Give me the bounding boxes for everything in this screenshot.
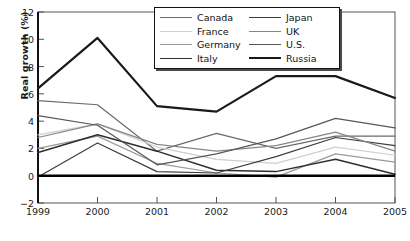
legend-item-italy[interactable]: Italy (160, 52, 245, 66)
legend-item-uk[interactable]: UK (249, 25, 334, 39)
line-chart: Real growth (%) 121086420−2 199920002001… (0, 0, 410, 241)
legend-swatch-line-icon (249, 31, 281, 32)
legend-item-france[interactable]: France (160, 25, 245, 39)
series-line-japan (38, 138, 395, 178)
legend-item-label: France (197, 27, 229, 37)
legend-item-label: Italy (197, 54, 218, 64)
legend-item-japan[interactable]: Japan (249, 11, 334, 25)
series-line-canada (38, 101, 395, 151)
legend-item-label: Japan (286, 13, 313, 23)
x-tick-label: 1999 (26, 206, 50, 217)
series-line-us (38, 116, 395, 165)
legend-item-label: Canada (197, 13, 233, 23)
x-tick-label: 2000 (85, 206, 109, 217)
chart-legend: CanadaJapanFranceUKGermanyU.S.ItalyRussi… (154, 7, 340, 69)
legend-swatch-line-icon (249, 44, 281, 45)
legend-item-germany[interactable]: Germany (160, 38, 245, 52)
legend-item-label: UK (286, 27, 299, 37)
legend-item-russia[interactable]: Russia (249, 52, 334, 66)
legend-item-us[interactable]: U.S. (249, 38, 334, 52)
legend-swatch-line-icon (160, 31, 192, 32)
legend-item-canada[interactable]: Canada (160, 11, 245, 25)
x-tick-label: 2004 (323, 206, 347, 217)
legend-swatch-line-icon (160, 44, 192, 45)
legend-item-label: U.S. (286, 40, 305, 50)
legend-swatch-line-icon (160, 17, 192, 18)
legend-swatch-line-icon (249, 57, 281, 59)
legend-item-label: Germany (197, 40, 241, 50)
x-tick-label: 2005 (383, 206, 407, 217)
series-line-france (38, 124, 395, 164)
x-tick-label: 2002 (204, 206, 228, 217)
legend-swatch-line-icon (160, 58, 192, 59)
x-tick-label: 2001 (145, 206, 169, 217)
x-tick-label: 2003 (264, 206, 288, 217)
legend-swatch-line-icon (249, 17, 281, 18)
legend-item-label: Russia (286, 54, 317, 64)
